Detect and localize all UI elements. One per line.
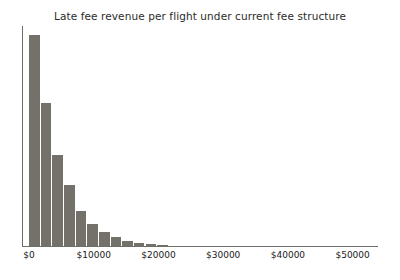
bar — [64, 185, 76, 246]
bar — [134, 243, 146, 246]
plot-area — [22, 26, 378, 246]
x-axis-tick-label: $0 — [23, 250, 34, 260]
x-axis-spine — [22, 246, 378, 247]
bar — [99, 232, 111, 246]
bar — [52, 155, 64, 246]
x-axis-tick-label: $30000 — [206, 250, 240, 260]
x-axis-tick-label: $40000 — [271, 250, 305, 260]
bar — [157, 245, 169, 246]
bar — [111, 237, 123, 246]
x-axis-tick-label: $10000 — [77, 250, 111, 260]
x-axis-tick-label: $20000 — [141, 250, 175, 260]
bar — [41, 103, 53, 246]
chart-figure: Late fee revenue per flight under curren… — [0, 0, 400, 280]
bar — [122, 241, 134, 246]
bar — [29, 35, 41, 246]
bar — [146, 244, 158, 246]
x-axis-tick-label: $50000 — [335, 250, 369, 260]
chart-title: Late fee revenue per flight under curren… — [0, 10, 400, 22]
bar — [87, 224, 99, 246]
bar — [76, 211, 88, 246]
